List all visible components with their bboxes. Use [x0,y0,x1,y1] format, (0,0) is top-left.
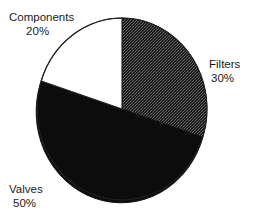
pie-label-filters-value: 30% [209,72,240,86]
pie-chart-figure: Components 20% Filters 30% Valves 50% [0,0,257,222]
pie-label-components: Components 20% [9,11,74,38]
pie-label-components-name: Components [9,11,74,25]
pie-label-valves: Valves 50% [9,183,43,210]
pie-label-filters-name: Filters [209,58,240,72]
pie-label-valves-name: Valves [9,183,43,197]
pie-label-filters: Filters 30% [209,58,240,85]
pie-label-components-value: 20% [9,25,74,39]
pie-label-valves-value: 50% [9,197,43,211]
